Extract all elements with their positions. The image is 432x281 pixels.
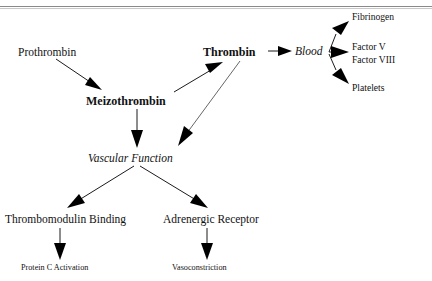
node-meizothrombin: Meizothrombin	[86, 94, 166, 108]
node-thrombin: Thrombin	[203, 45, 256, 59]
node-adrenergic-receptor: Adrenergic Receptor	[163, 213, 259, 226]
edge-thrombin-to-vascular-function	[178, 61, 240, 146]
pathway-diagram: Prothrombin Meizothrombin Thrombin Blood…	[0, 0, 432, 281]
edge-thrombin-to-blood	[268, 46, 292, 56]
node-platelets: Platelets	[352, 82, 385, 93]
node-factor-viii: Factor VIII	[352, 54, 395, 65]
edge-blood-to-factor-v-viii	[329, 46, 349, 58]
node-fibrinogen: Fibrinogen	[352, 11, 394, 22]
node-protein-c-activation: Protein C Activation	[21, 263, 88, 272]
node-vasoconstriction: Vasoconstriction	[172, 263, 227, 272]
node-thrombomodulin-binding: Thrombomodulin Binding	[5, 213, 126, 226]
node-vascular-function: Vascular Function	[88, 152, 173, 164]
edge-meizothrombin-to-thrombin	[174, 62, 223, 92]
edge-adrenergic-receptor-to-vasoconstriction	[201, 228, 213, 260]
node-blood: Blood	[295, 45, 323, 57]
diagram-page: Prothrombin Meizothrombin Thrombin Blood…	[0, 0, 432, 281]
edge-blood-to-platelets	[329, 54, 349, 84]
node-factor-v: Factor V	[352, 41, 386, 52]
edge-vascular-function-to-adrenergic-receptor	[140, 166, 208, 208]
edge-thrombomodulin-binding-to-protein-c-activation	[54, 228, 66, 260]
node-prothrombin: Prothrombin	[18, 46, 76, 58]
edge-meizothrombin-to-vascular-function	[131, 109, 143, 148]
edge-vascular-function-to-thrombomodulin-binding	[67, 166, 134, 208]
edge-prothrombin-to-meizothrombin	[56, 59, 102, 90]
